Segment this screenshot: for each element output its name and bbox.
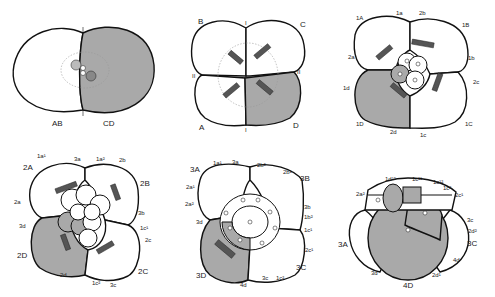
mark-top: I: [245, 20, 247, 26]
label-1d: 1d: [343, 85, 350, 91]
label-C: C: [300, 20, 306, 29]
label-1c1: 1c¹: [304, 227, 312, 233]
label-2a: 2a: [348, 54, 355, 60]
panel-lateral-view: 1d¹² 1c¹¹ 1c¹² 1c² 2a² 2c¹ 3c 2d² 3A 3C …: [338, 176, 477, 290]
label-A: A: [199, 123, 205, 132]
panel-four-cell: B C A D I I II II: [192, 17, 306, 133]
label-3a: 3a: [232, 159, 239, 165]
label-2d1: 2d¹: [432, 272, 441, 278]
label-2a2: 2a²: [356, 191, 365, 197]
label-3A: 3A: [338, 240, 348, 249]
label-2b: 2b: [419, 10, 426, 16]
cleavage-figure: AB CD B C A D I I II II: [0, 0, 495, 297]
blastomere-AB: [13, 28, 83, 111]
label-3C: 3C: [296, 263, 306, 272]
label-1c1: 1c¹: [140, 225, 148, 231]
label-3c: 3c: [262, 275, 268, 281]
label-1c2: 1c²: [443, 185, 451, 191]
blastomere-B: [192, 21, 246, 76]
label-4d: 4d: [453, 257, 460, 263]
label-2c1: 2c¹: [305, 247, 313, 253]
mark-bottom: I: [245, 127, 247, 133]
label-1D: 1D: [356, 121, 364, 127]
label-3b: 3b: [138, 210, 145, 216]
label-2c: 2c: [473, 79, 479, 85]
label-1c12: 1c¹²: [433, 179, 443, 185]
label-2a1: 2a¹: [186, 184, 195, 190]
label-3c: 3c: [110, 282, 116, 288]
label-1a1: 1a¹: [213, 160, 222, 166]
label-3a: 3a: [74, 156, 81, 162]
label-1A: 1A: [356, 15, 363, 21]
label-1B: 1B: [462, 22, 469, 28]
panel-sixteen-cell: 1a¹ 3a 1a² 2b 2A 2B 2a 3b 3d 1c¹ 2c 2D 2…: [14, 153, 151, 288]
label-AB: AB: [52, 119, 63, 128]
label-2b: 2b: [119, 157, 126, 163]
label-2d: 2d: [60, 272, 67, 278]
panel-two-cell: AB CD: [13, 27, 154, 128]
label-2b1: 2b¹: [283, 169, 292, 175]
panel-thirty-two-cell: 3A 1a¹ 3a 2b² 2b¹ 3B 2a¹ 2a² 3b 1b² 3d 1…: [185, 159, 313, 288]
label-2C: 2C: [138, 267, 148, 276]
label-2c1: 2c¹: [455, 192, 463, 198]
label-1c11: 1c¹¹: [412, 176, 422, 182]
blastomere-A: [195, 75, 246, 126]
panel-eight-cell: 1A 1a 2b 1B 2a 1b 2c 1d 1D 2d 1c 1C: [343, 10, 479, 138]
label-3d: 3d: [371, 270, 378, 276]
label-1a2: 1a²: [96, 156, 105, 162]
blastomere-C: [246, 21, 305, 76]
label-1b: 1b: [468, 55, 475, 61]
mark-left: II: [192, 73, 196, 79]
label-CD: CD: [103, 119, 115, 128]
label-2b2: 2b²: [257, 162, 266, 168]
label-2D: 2D: [17, 251, 27, 260]
label-4d: 4d: [240, 282, 247, 288]
label-1b2: 1b²: [304, 214, 313, 220]
label-D: D: [293, 121, 299, 130]
blastomere-CD: [80, 27, 155, 112]
label-2a2: 2a²: [185, 201, 194, 207]
label-3d: 3d: [196, 219, 203, 225]
label-1c: 1c: [420, 132, 426, 138]
label-2B: 2B: [140, 179, 150, 188]
label-4D: 4D: [403, 281, 413, 290]
blastomere-D: [245, 72, 301, 125]
label-1d12: 1d¹²: [385, 176, 396, 182]
label-2d: 2d: [390, 129, 397, 135]
label-3b: 3b: [304, 204, 311, 210]
label-3d: 3d: [19, 223, 26, 229]
label-3B: 3B: [300, 174, 310, 183]
label-3A: 3A: [190, 165, 200, 174]
label-1c2: 1c²: [276, 275, 284, 281]
label-3c: 3c: [467, 217, 473, 223]
label-1a: 1a: [396, 10, 403, 16]
label-1a1: 1a¹: [37, 153, 46, 159]
label-3D: 3D: [196, 271, 206, 280]
label-2d2: 2d²: [468, 228, 477, 234]
label-1c2: 1c²: [92, 280, 100, 286]
label-2c: 2c: [145, 237, 151, 243]
label-1C: 1C: [465, 121, 473, 127]
label-2A: 2A: [23, 163, 33, 172]
label-3C: 3C: [467, 239, 477, 248]
label-2a: 2a: [14, 199, 21, 205]
label-B: B: [198, 17, 203, 26]
mark-right: II: [297, 69, 301, 75]
